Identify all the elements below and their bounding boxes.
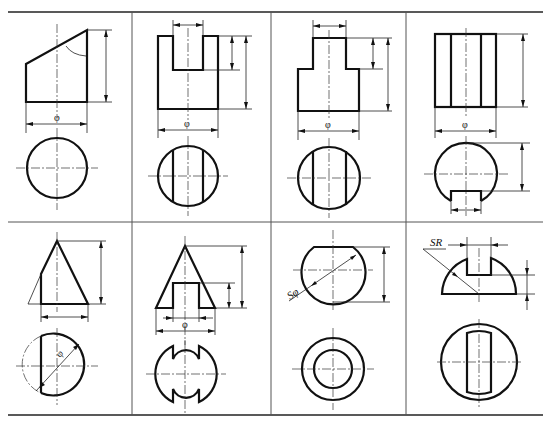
sphere-radius-label: SR <box>430 236 443 248</box>
cell-cut-cone: φ <box>16 232 106 405</box>
front-view-outline <box>435 34 496 107</box>
table-grid <box>8 12 543 415</box>
diameter-label: φ <box>325 119 331 130</box>
diameter-label: φ <box>54 112 60 123</box>
front-view-outline <box>156 246 215 308</box>
front-view-outline <box>298 38 359 111</box>
diameter-label: φ <box>462 119 468 130</box>
diameter-label: φ <box>184 118 190 129</box>
sphere-radius-leader <box>423 249 479 294</box>
sphere-diameter-label: Sφ <box>284 285 300 301</box>
cell-flat-cylinder: φ <box>424 28 530 216</box>
cell-stepped-cylinder: φ <box>287 20 392 218</box>
cell-truncated-cylinder: φ <box>16 24 112 210</box>
front-view-outline <box>26 30 87 102</box>
diameter-label: φ <box>53 348 65 360</box>
cell-slotted-cylinder: φ <box>148 20 252 216</box>
front-view-outline <box>41 241 88 304</box>
front-view-outline <box>301 247 365 304</box>
top-view-arc <box>41 334 84 396</box>
phantom-cone-edge <box>28 274 41 304</box>
angle-arc <box>66 46 86 56</box>
cell-truncated-sphere: Sφ <box>284 230 390 410</box>
drawing-canvas: φ φ <box>0 0 548 429</box>
cell-slotted-hemisphere: SR <box>423 236 535 407</box>
diameter-label: φ <box>182 319 188 330</box>
cell-slotted-cone: φ <box>146 236 247 415</box>
